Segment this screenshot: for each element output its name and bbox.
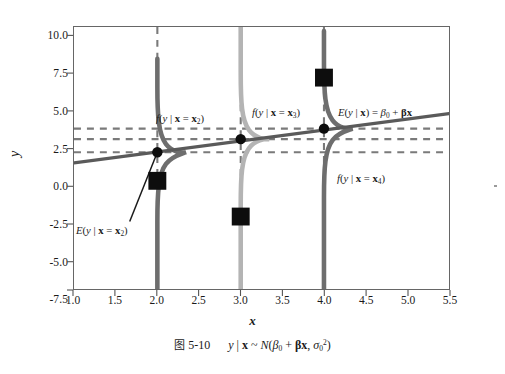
figure-container: 10.0 7.5 5.0 2.5 0.0 -2.5 -5.0 -7.5 y xyxy=(0,0,505,374)
y-tick-label: 5.0 xyxy=(53,105,68,117)
mean-point-x2 xyxy=(152,147,162,157)
caption-formula: y | x ~ N(β0 + βx, σ02) xyxy=(228,338,331,352)
y-tick-label: 7.5 xyxy=(53,67,68,79)
mean-point-x4 xyxy=(319,123,329,133)
y-tick-label: 10.0 xyxy=(47,29,68,41)
annotation-dist-x4: f(y | x = x4) xyxy=(337,172,385,186)
x-tick-label: 2.5 xyxy=(191,294,205,306)
x-axis-title: x xyxy=(0,313,505,329)
density-curve-x3 xyxy=(241,27,269,289)
x-axis-ticks: 1.0 1.5 2.0 2.5 3.0 3.5 4.0 4.5 5.0 5.5 xyxy=(73,294,450,312)
mean-point-x3 xyxy=(236,134,246,144)
x-tick-label: 4.5 xyxy=(359,294,373,306)
y-axis-ticks: 10.0 7.5 5.0 2.5 0.0 -2.5 -5.0 -7.5 xyxy=(18,26,68,290)
y-tick-label: -5.0 xyxy=(49,256,68,268)
observed-point-x2 xyxy=(148,172,166,190)
x-tick-label: 1.0 xyxy=(66,294,80,306)
x-tick-label: 3.0 xyxy=(233,294,247,306)
x-tick-label: 5.0 xyxy=(401,294,415,306)
y-tick-label: -2.5 xyxy=(49,218,68,230)
y-tick-label: 2.5 xyxy=(53,143,68,155)
plot-svg xyxy=(74,27,449,289)
x-tick-label: 5.5 xyxy=(443,294,457,306)
caption-prefix: 图 xyxy=(174,339,185,352)
observed-point-x3 xyxy=(232,208,250,226)
annotation-dist-x3: f(y | x = x3) xyxy=(252,106,300,120)
figure-caption: 图 5-10 y | x ~ N(β0 + βx, σ02) xyxy=(0,336,505,353)
annotation-regression-line: E(y | x) = β0 + βx xyxy=(338,106,412,120)
annotation-dist-x2: f(y | x = x2) xyxy=(156,112,204,126)
observed-point-x4 xyxy=(315,69,333,87)
y-tick-label: 0.0 xyxy=(53,180,68,192)
annotation-expected-x2: E(y | x = x2) xyxy=(76,224,128,238)
y-axis-title: y xyxy=(7,151,23,157)
plot-area: f(y | x = x2) f(y | x = x3) f(y | x = x4… xyxy=(73,26,450,290)
x-tick-label: 3.5 xyxy=(275,294,289,306)
page-speck xyxy=(494,185,497,187)
caption-number: 5-10 xyxy=(188,338,210,352)
x-tick-label: 2.0 xyxy=(150,294,164,306)
x-tick-label: 4.0 xyxy=(317,294,331,306)
x-tick-label: 1.5 xyxy=(108,294,122,306)
